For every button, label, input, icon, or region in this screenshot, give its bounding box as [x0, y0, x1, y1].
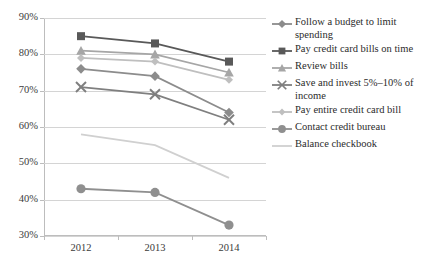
- line-chart: 90%80%70%60%50%40%30% 201220132014 Follo…: [0, 0, 422, 272]
- y-axis-tick-label: 50%: [0, 157, 38, 167]
- legend-label: Balance checkbook: [295, 138, 421, 151]
- x-tick-mark: [118, 236, 119, 240]
- legend-marker-icon: [272, 78, 292, 92]
- data-point-marker: [76, 184, 85, 193]
- data-point-marker: [77, 32, 85, 40]
- legend-label: Save and invest 5%–10% of income: [295, 77, 421, 102]
- legend-marker-icon: [272, 139, 292, 153]
- data-point-marker: [76, 64, 86, 74]
- x-axis-tick-label: 2014: [199, 242, 259, 253]
- series-5: [76, 184, 233, 230]
- legend-marker-icon: [272, 105, 292, 119]
- legend-item-0[interactable]: Follow a budget to limit spending: [272, 16, 422, 41]
- chart-legend: Follow a budget to limit spendingPay cre…: [272, 16, 422, 155]
- data-point-marker: [225, 76, 233, 84]
- data-point-marker: [150, 188, 159, 197]
- x-tick-mark: [44, 236, 45, 240]
- plot-area: [44, 18, 266, 236]
- legend-label: Follow a budget to limit spending: [295, 16, 421, 41]
- legend-item-2[interactable]: Review bills: [272, 60, 422, 75]
- legend-label: Pay credit card bills on time: [295, 43, 421, 56]
- data-point-marker: [225, 58, 233, 66]
- legend-marker-icon: [272, 122, 292, 136]
- data-point-marker: [151, 58, 159, 66]
- x-axis-tick-label: 2012: [51, 242, 111, 253]
- y-axis-tick-label: 40%: [0, 194, 38, 204]
- y-axis-tick-label: 90%: [0, 12, 38, 22]
- legend-marker-icon: [272, 44, 292, 58]
- series-line: [81, 87, 229, 120]
- series-6: [81, 134, 229, 178]
- y-axis-tick-label: 60%: [0, 121, 38, 131]
- series-line: [81, 134, 229, 178]
- data-point-marker: [224, 221, 233, 230]
- legend-label: Review bills: [295, 60, 421, 73]
- legend-item-1[interactable]: Pay credit card bills on time: [272, 43, 422, 58]
- legend-item-5[interactable]: Contact credit bureau: [272, 121, 422, 136]
- legend-marker-icon: [272, 17, 292, 31]
- legend-label: Pay entire credit card bill: [295, 104, 421, 117]
- x-tick-mark: [192, 236, 193, 240]
- series-layer: [44, 18, 266, 236]
- legend-item-4[interactable]: Pay entire credit card bill: [272, 104, 422, 119]
- y-axis-tick-label: 70%: [0, 85, 38, 95]
- legend-label: Contact credit bureau: [295, 121, 421, 134]
- legend-item-3[interactable]: Save and invest 5%–10% of income: [272, 77, 422, 102]
- y-axis-tick-label: 30%: [0, 230, 38, 240]
- x-tick-mark: [266, 236, 267, 240]
- y-axis-tick-label: 80%: [0, 48, 38, 58]
- gridline: [44, 236, 266, 237]
- legend-marker-icon: [272, 61, 292, 75]
- data-point-marker: [151, 39, 159, 47]
- series-0: [76, 64, 234, 117]
- data-point-marker: [150, 71, 160, 81]
- legend-item-6[interactable]: Balance checkbook: [272, 138, 422, 153]
- x-axis-tick-label: 2013: [125, 242, 185, 253]
- data-point-marker: [77, 54, 85, 62]
